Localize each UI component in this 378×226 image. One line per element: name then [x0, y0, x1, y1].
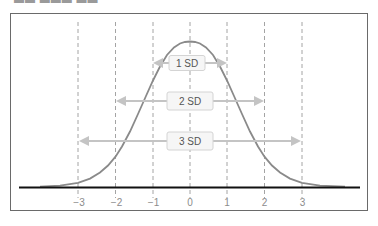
normal-distribution-diagram: 1 SD 2 SD 3 SD −3 −2 −1 0 1 2 3	[0, 0, 378, 226]
tick-minus-1: −1	[148, 197, 160, 208]
tick-2: 2	[262, 197, 268, 208]
label-3sd: 3 SD	[179, 136, 201, 147]
range-2sd: 2 SD	[118, 92, 262, 110]
tick-0: 0	[187, 197, 193, 208]
tick-1: 1	[224, 197, 230, 208]
tick-minus-2: −2	[111, 197, 123, 208]
tick-3: 3	[300, 197, 306, 208]
range-3sd: 3 SD	[81, 132, 299, 150]
tick-minus-3: −3	[73, 197, 85, 208]
tick-labels: −3 −2 −1 0 1 2 3	[73, 197, 305, 208]
label-2sd: 2 SD	[179, 96, 201, 107]
label-1sd: 1 SD	[176, 58, 198, 69]
